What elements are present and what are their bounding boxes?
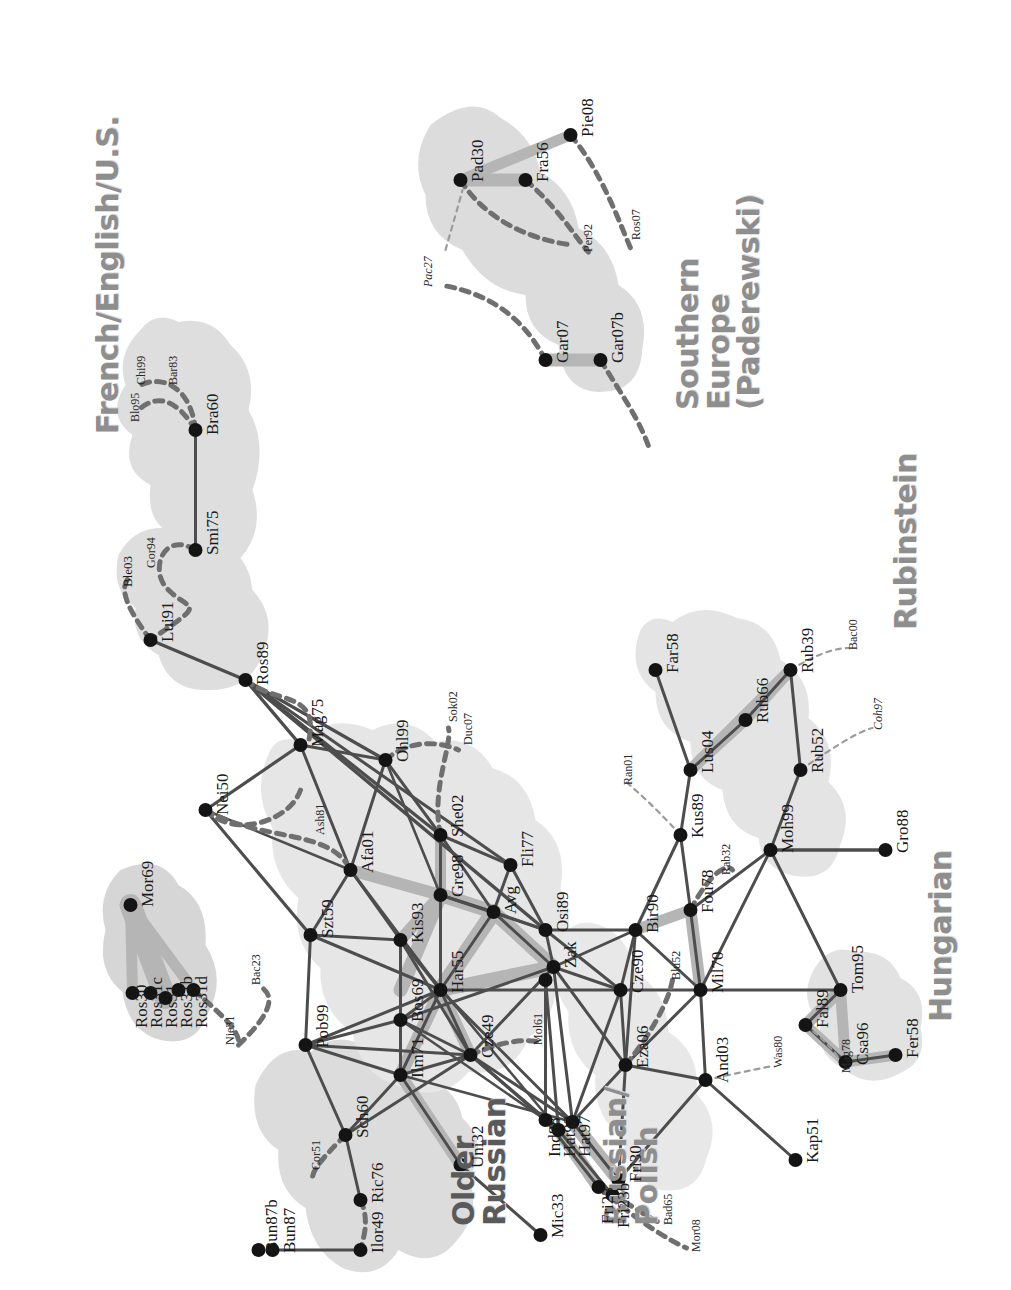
node-label[interactable]: Tom95 (848, 945, 865, 993)
node-label[interactable]: Moh99 (778, 804, 795, 853)
edge-label[interactable]: Coh97 (870, 698, 885, 730)
node-label[interactable]: Sch60 (353, 1096, 370, 1139)
edge-label[interactable]: Gor94 (143, 537, 158, 568)
edge-label[interactable]: Pac27 (420, 256, 435, 287)
node-label[interactable]: Rub52 (808, 728, 825, 773)
node-label[interactable]: Rub66 (753, 678, 770, 723)
node-label[interactable]: Kis93 (408, 902, 425, 943)
edge-label[interactable]: Sok02 (445, 691, 460, 722)
node-label[interactable]: Ros89 (253, 642, 270, 685)
network-canvas: French/English/U.S. Southern Europe (Pad… (0, 0, 1011, 1290)
edge-label[interactable]: Mor08 (688, 1219, 703, 1252)
group-label-french: French/English/U.S. (92, 116, 123, 435)
node-label[interactable]: Pie08 (578, 98, 595, 137)
node-label[interactable]: Mag75 (308, 699, 325, 747)
node-label[interactable]: Csa96 (853, 1023, 870, 1066)
node-label[interactable]: Bir90 (643, 894, 660, 933)
node-label[interactable]: Mor69 (138, 861, 155, 907)
edge-label[interactable]: Per92 (580, 224, 595, 252)
node-label[interactable]: Fri23 (598, 1187, 615, 1224)
edge-label[interactable]: Bar83 (165, 356, 180, 385)
node-label[interactable]: Fri23b (614, 1183, 631, 1228)
edge-label[interactable]: Blo95 (127, 393, 142, 422)
node-label[interactable]: Gar07b (608, 312, 625, 363)
node-label[interactable]: Ros31d (192, 976, 209, 1028)
node-label[interactable]: Har55 (448, 951, 465, 993)
node-label[interactable]: Avg (501, 886, 518, 914)
edge-label[interactable]: Duc07 (460, 713, 475, 745)
node-label[interactable]: Ble03 (120, 556, 133, 587)
node-label[interactable]: Cze90 (628, 950, 645, 993)
node-label[interactable]: Fli77 (518, 831, 535, 867)
node-label[interactable]: Bun87 (280, 1208, 297, 1253)
group-label-southern: Southern Europe (Paderewski) (672, 194, 764, 410)
node-label[interactable]: Pob99 (313, 1005, 330, 1048)
node-label[interactable]: Rub39 (798, 628, 815, 673)
node-label[interactable]: Fra56 (533, 142, 550, 182)
node-label[interactable]: Osi89 (553, 891, 570, 932)
node-label[interactable]: Fal89 (813, 989, 830, 1028)
group-label-rubinstein: Rubinstein (890, 453, 921, 630)
node-label[interactable]: Kus89 (688, 794, 705, 838)
node-label[interactable]: Far58 (663, 633, 680, 673)
edge-label[interactable]: Cor51 (308, 1140, 323, 1170)
node-label[interactable]: Ric76 (368, 1162, 385, 1203)
node-label[interactable]: Ilm71 (408, 1037, 425, 1078)
edge-label[interactable]: Ran01 (620, 754, 635, 785)
node-label[interactable]: Gro88 (893, 810, 910, 853)
node-label[interactable]: Fri30 (626, 1145, 643, 1182)
node-label[interactable]: Mil70 (708, 951, 725, 993)
node-label[interactable]: Eza06 (633, 1026, 650, 1068)
edge-label[interactable]: Bac00 (845, 619, 860, 650)
node-label[interactable]: Pad30 (468, 140, 485, 183)
edge-label[interactable]: Rab32 (718, 844, 733, 875)
node-label[interactable]: Gar07 (553, 321, 570, 363)
node-label[interactable]: Uni32 (468, 1126, 485, 1169)
node-label[interactable]: Smi75 (203, 511, 220, 555)
node-label[interactable]: Fer58 (903, 1018, 920, 1058)
node-label[interactable]: Cze49 (478, 1015, 495, 1058)
edge-label[interactable]: Mol61 (530, 1013, 545, 1045)
figure-stage: French/English/U.S. Southern Europe (Pad… (0, 0, 1011, 1290)
node-label[interactable]: Lus04 (698, 731, 715, 774)
node-label[interactable]: Mic33 (548, 1194, 565, 1238)
node-label[interactable]: Zak (561, 942, 578, 968)
node-label[interactable]: Nei50 (213, 773, 230, 815)
node-label[interactable]: Lui91 (158, 601, 175, 642)
node-label[interactable]: Bun87b (262, 1199, 279, 1253)
edge-label[interactable]: Chi99 (133, 356, 148, 385)
edge-label[interactable]: Mag78 (838, 1039, 853, 1073)
edge-label[interactable]: Ros07 (628, 209, 643, 240)
edge-label[interactable]: Ash81 (312, 804, 327, 835)
node-label[interactable]: Hat97 (575, 1115, 592, 1157)
edge-label[interactable]: Bac23 (248, 954, 263, 985)
node-label[interactable]: She02 (448, 795, 465, 838)
node-label[interactable]: Fou78 (698, 870, 715, 913)
node-label[interactable]: Gre98 (448, 855, 465, 897)
edge-label[interactable]: Nie31 (222, 1016, 237, 1045)
node-label[interactable]: And03 (713, 1037, 730, 1083)
node-label[interactable]: Szt59 (318, 899, 335, 938)
node-label[interactable]: Ilor49 (368, 1211, 385, 1253)
edge-label[interactable]: Blu52 (668, 951, 683, 980)
node-label[interactable]: Afa01 (358, 831, 375, 873)
node-label[interactable]: Bra60 (203, 393, 220, 435)
node-label[interactable]: Bos69 (408, 979, 425, 1022)
node-label[interactable]: Ohl99 (393, 720, 410, 763)
group-label-hungarian: Hungarian (925, 850, 956, 1022)
edge-label[interactable]: Was80 (770, 1036, 785, 1068)
node-label[interactable]: Kap51 (803, 1118, 820, 1163)
edge-label[interactable]: Bad65 (660, 1194, 675, 1225)
